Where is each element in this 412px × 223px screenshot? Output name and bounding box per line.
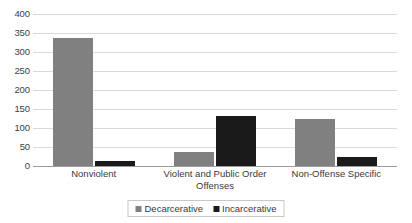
x-axis-category-label: Violent and Public Order Offenses	[154, 168, 275, 192]
bar-decarcerative-1	[174, 152, 214, 166]
y-axis-tick-label: 150	[0, 104, 30, 114]
x-axis-labels: NonviolentViolent and Public Order Offen…	[33, 168, 397, 198]
bars-layer	[33, 14, 397, 166]
y-axis-tick-label: 400	[0, 9, 30, 19]
y-axis-tick-label: 100	[0, 123, 30, 133]
y-axis-tick-label: 250	[0, 66, 30, 76]
y-axis-tick-label: 350	[0, 28, 30, 38]
y-axis-tick-label: 300	[0, 47, 30, 57]
y-axis-tick-label: 50	[0, 142, 30, 152]
chart-legend: DecarcerativeIncarcerative	[128, 200, 285, 217]
x-axis-category-label: Nonviolent	[33, 168, 154, 180]
y-axis-tick-label: 200	[0, 85, 30, 95]
bar-chart: 400350300250200150100500 NonviolentViole…	[0, 0, 412, 223]
bar-incarcerative-0	[95, 161, 135, 166]
bar-incarcerative-1	[216, 116, 256, 166]
legend-label: Incarcerative	[222, 203, 276, 214]
bar-decarcerative-0	[53, 38, 93, 166]
y-axis-labels: 400350300250200150100500	[0, 14, 30, 166]
legend-label: Decarcerative	[145, 203, 204, 214]
legend-entry-incarcerative[interactable]: Incarcerative	[213, 203, 276, 214]
legend-entry-decarcerative[interactable]: Decarcerative	[136, 203, 204, 214]
y-axis-tick-label: 0	[0, 161, 30, 171]
axis-baseline	[33, 166, 397, 167]
legend-swatch-icon	[213, 206, 219, 212]
legend-swatch-icon	[136, 206, 142, 212]
x-axis-category-label: Non-Offense Specific	[276, 168, 397, 180]
plot-area	[33, 14, 397, 166]
bar-decarcerative-2	[295, 119, 335, 167]
bar-incarcerative-2	[337, 157, 377, 166]
